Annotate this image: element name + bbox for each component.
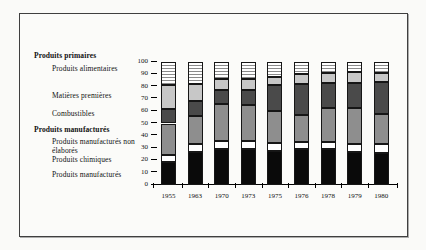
bar-segment xyxy=(161,62,176,85)
bar-segment xyxy=(188,144,203,151)
x-axis-tick xyxy=(262,183,263,188)
bar-segment xyxy=(374,114,389,145)
bar-segment xyxy=(374,144,389,153)
y-axis-label: 90 xyxy=(122,69,148,77)
bar-segment xyxy=(188,152,203,185)
bar-segment xyxy=(294,74,309,84)
bar-segment xyxy=(374,62,389,73)
bar-segment xyxy=(374,73,389,82)
bar-segment xyxy=(294,149,309,185)
y-axis-label: 20 xyxy=(122,155,148,163)
y-axis-label: 100 xyxy=(122,57,148,65)
bar-segment xyxy=(347,83,362,108)
y-axis-tick xyxy=(151,97,157,98)
plot-area: 0102030405060708090100195519631970197319… xyxy=(0,0,426,250)
x-axis-category-label: 1963 xyxy=(180,192,210,200)
x-axis-category-label: 1979 xyxy=(340,192,370,200)
bar-segment xyxy=(374,82,389,114)
bar-segment xyxy=(267,62,282,77)
x-axis-category-label: 1976 xyxy=(287,192,317,200)
bar-segment xyxy=(267,111,282,143)
bar-segment xyxy=(374,153,389,185)
y-axis-tick xyxy=(151,73,157,74)
y-axis-label: 80 xyxy=(122,82,148,90)
y-axis-label: 30 xyxy=(122,143,148,151)
bar-segment xyxy=(241,79,256,90)
y-axis-label: 50 xyxy=(122,119,148,127)
x-axis-tick xyxy=(341,183,342,188)
bar-segment xyxy=(214,79,229,90)
chart-figure: Produits primaires Produits alimentaires… xyxy=(0,0,426,250)
bar-segment xyxy=(267,77,282,86)
x-axis-tick xyxy=(182,183,183,188)
y-axis-tick xyxy=(151,134,157,135)
y-axis-tick xyxy=(151,147,157,148)
x-axis-tick xyxy=(288,183,289,188)
bar-segment xyxy=(161,124,176,156)
bar-segment xyxy=(188,116,203,144)
bar-segment xyxy=(294,115,309,142)
bar-segment xyxy=(161,162,176,185)
x-axis-category-label: 1970 xyxy=(207,192,237,200)
x-axis-tick xyxy=(315,183,316,188)
y-axis-tick xyxy=(151,110,157,111)
x-axis-tick xyxy=(208,183,209,188)
bar-segment xyxy=(321,73,336,83)
bar-segment xyxy=(161,155,176,161)
y-axis-label: 60 xyxy=(122,106,148,114)
y-axis-label: 40 xyxy=(122,131,148,139)
bar-segment xyxy=(347,108,362,145)
y-axis-label: 70 xyxy=(122,94,148,102)
x-axis-category-label: 1973 xyxy=(233,192,263,200)
y-axis-tick xyxy=(151,122,157,123)
bar-segment xyxy=(214,149,229,185)
bar-segment xyxy=(241,105,256,141)
x-axis-tick xyxy=(235,183,236,188)
bar-segment xyxy=(347,72,362,83)
x-axis-category-label: 1955 xyxy=(154,192,184,200)
bar-segment xyxy=(214,62,229,79)
bar-segment xyxy=(188,84,203,101)
bar-segment xyxy=(347,152,362,185)
bar-segment xyxy=(241,149,256,185)
bar-segment xyxy=(214,90,229,104)
bar-segment xyxy=(161,85,176,108)
bar-segment xyxy=(188,62,203,84)
bar-segment xyxy=(214,141,229,150)
bar-segment xyxy=(267,143,282,150)
y-axis-tick xyxy=(151,61,157,62)
bar-segment xyxy=(347,62,362,72)
bar-segment xyxy=(321,149,336,185)
bar-segment xyxy=(267,85,282,111)
bar-segment xyxy=(241,141,256,150)
bar-segment xyxy=(241,62,256,79)
bar-segment xyxy=(267,151,282,185)
bar-segment xyxy=(214,104,229,141)
y-axis-label: 0 xyxy=(122,180,148,188)
bar-segment xyxy=(321,108,336,142)
y-axis-tick xyxy=(151,171,157,172)
y-axis-tick xyxy=(151,159,157,160)
bar-segment xyxy=(321,142,336,149)
bar-segment xyxy=(321,62,336,73)
bar-segment xyxy=(188,101,203,116)
bar-segment xyxy=(347,144,362,151)
y-axis-label: 10 xyxy=(122,168,148,176)
bar-segment xyxy=(321,83,336,108)
x-axis-tick xyxy=(368,183,369,188)
bar-segment xyxy=(161,109,176,124)
x-axis-tick xyxy=(397,183,398,188)
bar-segment xyxy=(294,142,309,149)
x-axis-category-label: 1978 xyxy=(313,192,343,200)
bar-segment xyxy=(294,84,309,115)
y-axis-tick xyxy=(151,85,157,86)
x-axis-category-label: 1980 xyxy=(366,192,396,200)
x-axis-category-label: 1975 xyxy=(260,192,290,200)
bar-segment xyxy=(241,90,256,105)
bar-segment xyxy=(294,62,309,74)
x-axis-tick xyxy=(153,183,154,188)
